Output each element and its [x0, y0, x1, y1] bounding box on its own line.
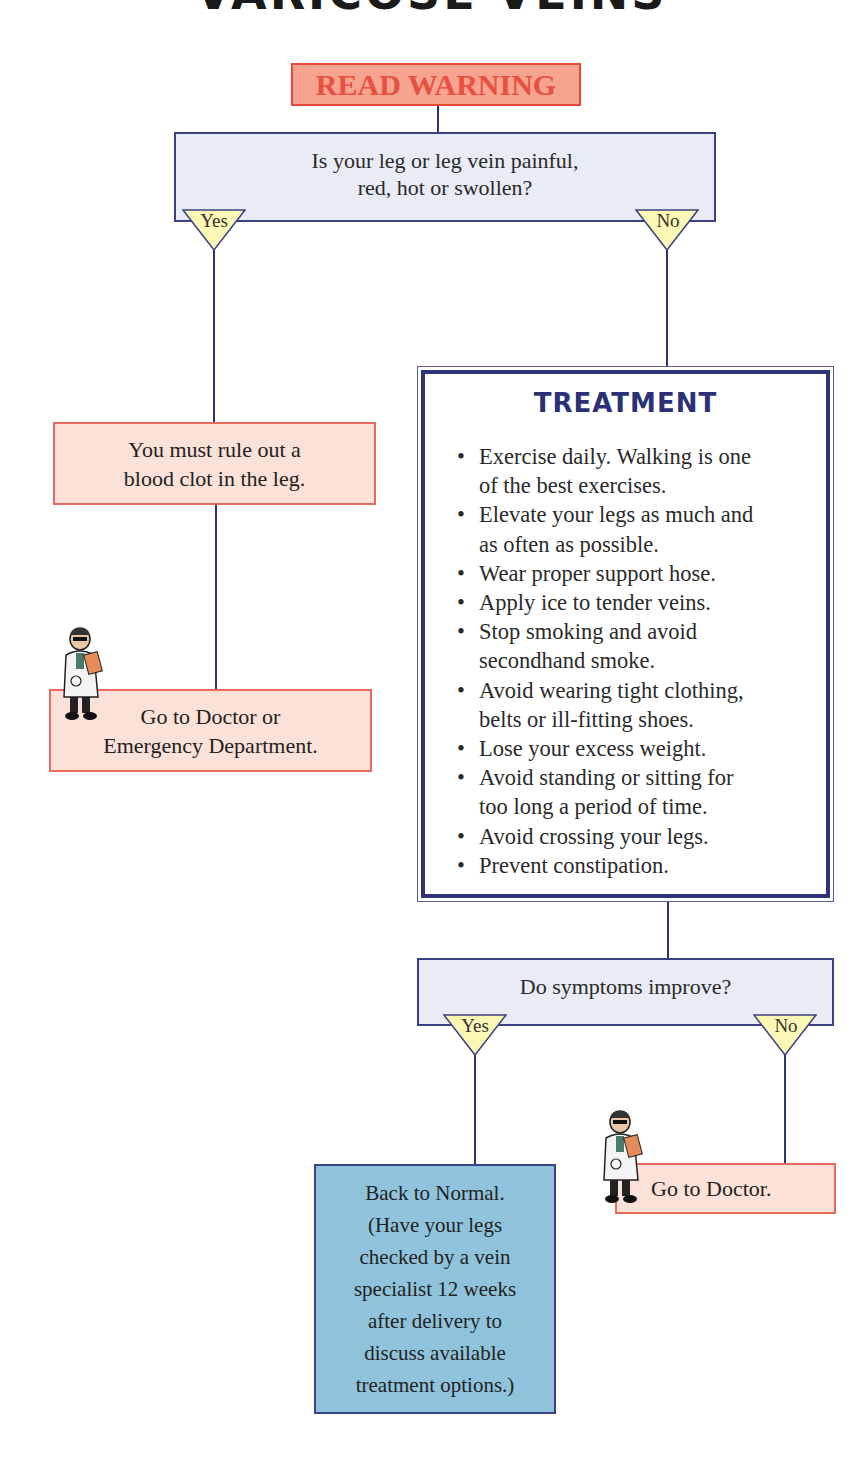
treatment-list: Exercise daily. Walking is oneof the bes… [455, 442, 815, 880]
treatment-item-line: Avoid crossing your legs. [479, 822, 815, 851]
page-title: VARICOSE VEINS [0, 0, 863, 20]
treatment-item-line: of the best exercises. [479, 471, 815, 500]
back-to-normal-box: Back to Normal. (Have your legs checked … [314, 1164, 556, 1414]
no-label-q2: No [756, 1015, 816, 1037]
no-label-q1: No [638, 210, 698, 232]
doctor-icon [60, 625, 110, 723]
back-to-normal-line: (Have your legs [354, 1209, 516, 1241]
connector-no1-treatment [666, 248, 668, 366]
connector-no2-outcome [784, 1052, 786, 1164]
rule-out-clot-line-2: blood clot in the leg. [124, 464, 305, 493]
question-1-line-2: red, hot or swollen? [312, 174, 579, 201]
treatment-item-line: Wear proper support hose. [479, 559, 815, 588]
back-to-normal-line: Back to Normal. [354, 1177, 516, 1209]
read-warning-label: READ WARNING [316, 68, 556, 102]
rule-out-clot-box: You must rule out a blood clot in the le… [53, 422, 376, 505]
back-to-normal-line: discuss available [354, 1337, 516, 1369]
treatment-item: Avoid standing or sitting fortoo long a … [455, 763, 815, 821]
yes-label-q1: Yes [184, 210, 244, 232]
back-to-normal-line: checked by a vein [354, 1241, 516, 1273]
go-to-doctor-or-ed-line-2: Emergency Department. [103, 731, 318, 760]
treatment-item: Avoid crossing your legs. [455, 822, 815, 851]
question-2-label: Do symptoms improve? [520, 973, 731, 1000]
treatment-inner-border: TREATMENT Exercise daily. Walking is one… [421, 370, 830, 898]
treatment-item: Stop smoking and avoidsecondhand smoke. [455, 617, 815, 675]
back-to-normal-line: after delivery to [354, 1305, 516, 1337]
treatment-item-line: secondhand smoke. [479, 646, 815, 675]
treatment-box: TREATMENT Exercise daily. Walking is one… [417, 366, 834, 902]
connector-warning-q1 [437, 106, 439, 134]
back-to-normal-line: specialist 12 weeks [354, 1273, 516, 1305]
connector-treatment-q2 [667, 902, 669, 960]
treatment-item-line: Exercise daily. Walking is one [479, 442, 815, 471]
connector-yes2-outcome [474, 1052, 476, 1164]
treatment-item: Apply ice to tender veins. [455, 588, 815, 617]
treatment-item: Prevent constipation. [455, 851, 815, 880]
connector-yes1-step1 [213, 248, 215, 424]
treatment-item-line: belts or ill-fitting shoes. [479, 705, 815, 734]
treatment-item-line: Prevent constipation. [479, 851, 815, 880]
treatment-item-line: Avoid standing or sitting for [479, 763, 815, 792]
back-to-normal-line: treatment options.) [354, 1369, 516, 1401]
read-warning-box: READ WARNING [291, 63, 581, 106]
treatment-item: Lose your excess weight. [455, 734, 815, 763]
rule-out-clot-line-1: You must rule out a [124, 435, 305, 464]
go-to-doctor-label: Go to Doctor. [651, 1174, 771, 1203]
connector-step1-step2 [215, 503, 217, 691]
treatment-item: Exercise daily. Walking is oneof the bes… [455, 442, 815, 500]
treatment-item: Elevate your legs as much andas often as… [455, 500, 815, 558]
treatment-item: Wear proper support hose. [455, 559, 815, 588]
yes-label-q2: Yes [445, 1015, 505, 1037]
treatment-item-line: Elevate your legs as much and [479, 500, 815, 529]
treatment-item-line: as often as possible. [479, 530, 815, 559]
treatment-item-line: Lose your excess weight. [479, 734, 815, 763]
doctor-icon [600, 1108, 650, 1206]
treatment-item: Avoid wearing tight clothing,belts or il… [455, 676, 815, 734]
treatment-item-line: Avoid wearing tight clothing, [479, 676, 815, 705]
treatment-title: TREATMENT [425, 388, 826, 418]
go-to-doctor-or-ed-line-1: Go to Doctor or [103, 702, 318, 731]
treatment-item-line: Apply ice to tender veins. [479, 588, 815, 617]
treatment-item-line: too long a period of time. [479, 792, 815, 821]
question-1-line-1: Is your leg or leg vein painful, [312, 147, 579, 174]
treatment-item-line: Stop smoking and avoid [479, 617, 815, 646]
